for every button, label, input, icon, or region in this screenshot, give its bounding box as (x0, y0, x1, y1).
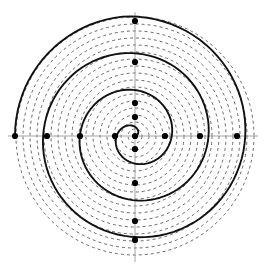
point-y-up-1 (132, 100, 138, 106)
point-y-down-0 (132, 146, 138, 152)
point-x-left-3 (12, 133, 18, 139)
point-y-down-2 (132, 218, 138, 224)
point-y-up-0 (132, 114, 138, 120)
spiral-figure-container (0, 0, 267, 273)
point-x-right-1 (197, 133, 203, 139)
point-x-left-1 (77, 133, 83, 139)
spiral-diagram-svg (0, 0, 267, 273)
point-center (132, 133, 138, 139)
point-y-down-3 (132, 237, 138, 243)
point-y-up-2 (132, 59, 138, 65)
point-x-right-0 (162, 133, 168, 139)
point-y-down-1 (132, 180, 138, 186)
point-x-left-2 (44, 133, 50, 139)
point-x-right-2 (234, 133, 240, 139)
point-x-left-0 (112, 133, 118, 139)
point-y-up-3 (132, 18, 138, 24)
